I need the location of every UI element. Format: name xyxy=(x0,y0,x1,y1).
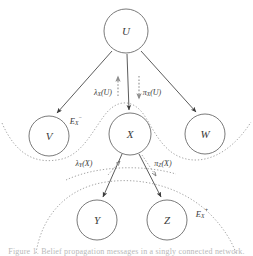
evidence-label-x-minus: EX− xyxy=(69,114,83,126)
pi-z-x-argument: (X) xyxy=(161,159,172,168)
edge-x-y xyxy=(103,154,122,197)
lambda-y-x-label: λY(X) xyxy=(75,159,93,168)
lower-evidence-boundary xyxy=(36,181,236,253)
node-x-label: X xyxy=(126,128,135,140)
pi-x-u-label: πX(U) xyxy=(143,88,162,97)
evidence-label-x-plus: EX+ xyxy=(195,207,209,219)
node-u[interactable]: U xyxy=(104,9,148,53)
graph-nodes: U V X W Y Z xyxy=(29,9,225,240)
node-x[interactable]: X xyxy=(109,113,151,155)
edge-u-x xyxy=(127,54,129,110)
node-u-label: U xyxy=(122,25,131,37)
evidence-x-plus-superscript: + xyxy=(204,207,208,213)
edge-u-v xyxy=(57,51,112,113)
node-y[interactable]: Y xyxy=(77,200,117,240)
evidence-x-minus-subscript: X xyxy=(74,120,79,126)
pi-z-x-label: πZ(X) xyxy=(154,159,172,168)
evidence-x-minus-superscript: − xyxy=(78,114,82,120)
node-z-label: Z xyxy=(164,214,171,226)
edge-u-w xyxy=(141,51,196,112)
figure-caption: Figure 1. Belief propagation messages in… xyxy=(0,247,253,256)
pi-x-u-argument: (U) xyxy=(150,88,161,97)
evidence-x-plus-subscript: X xyxy=(200,213,205,219)
lambda-x-u-label: λX(U) xyxy=(93,88,112,97)
node-z[interactable]: Z xyxy=(147,200,187,240)
figure-root: U V X W Y Z xyxy=(0,0,253,256)
lambda-x-u-argument: (U) xyxy=(101,88,112,97)
lambda-y-x-argument: (X) xyxy=(82,159,93,168)
bayesian-network-diagram: U V X W Y Z xyxy=(0,0,253,256)
node-v[interactable]: V xyxy=(29,116,69,156)
node-w[interactable]: W xyxy=(185,114,225,154)
node-w-label: W xyxy=(200,128,210,140)
lower-evidence-boundary-lip xyxy=(66,168,176,180)
